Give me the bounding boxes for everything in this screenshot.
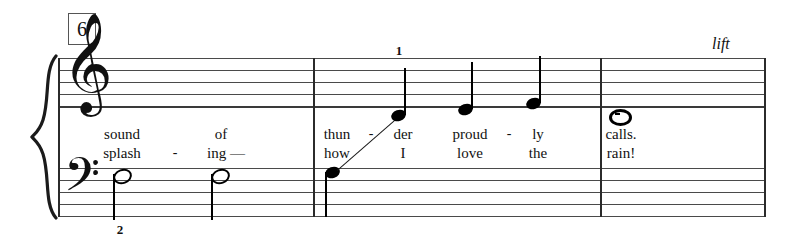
- bass-staff-line-4: [58, 204, 765, 205]
- stem-half-2: [211, 174, 213, 220]
- barline-measure-1-end: [313, 58, 315, 217]
- lyric-word: how: [324, 146, 350, 161]
- stem-quarter-1: [404, 68, 406, 115]
- system-brace: [30, 54, 60, 220]
- treble-staff-line-2: [58, 70, 765, 71]
- lyric-word: ly: [532, 127, 544, 142]
- lyric-word: love: [457, 146, 483, 161]
- lyric-hyphen: -: [507, 127, 512, 141]
- stem-quarter-2: [471, 62, 473, 109]
- bass-staff-line-5: [58, 216, 765, 217]
- stem-quarter-3: [539, 56, 541, 103]
- fingering-2: 2: [114, 223, 126, 236]
- fingering-1: 1: [393, 44, 405, 57]
- bass-staff-line-1: [58, 168, 765, 169]
- lyric-hyphen: -: [369, 127, 374, 141]
- lyric-word: der: [393, 127, 412, 142]
- lyric-word: sound: [104, 127, 140, 142]
- expression-lift: lift: [712, 36, 730, 52]
- treble-staff-line-5: [58, 106, 765, 108]
- stem-quarter-bass: [325, 172, 327, 217]
- lyric-hyphen: -: [173, 146, 178, 160]
- lyric-word: splash: [103, 146, 141, 161]
- bass-staff-line-2: [58, 180, 765, 181]
- notehead-whole: [609, 109, 632, 126]
- treble-clef-icon: 𝄞: [62, 20, 113, 106]
- lyric-word: calls.: [605, 127, 636, 142]
- treble-staff-line-3: [58, 82, 765, 83]
- lyric-word: of: [215, 127, 228, 142]
- stem-half-1: [113, 174, 115, 220]
- barline-measure-2-end: [600, 58, 602, 217]
- lyric-word: I: [401, 146, 406, 161]
- lyric-word: proud: [453, 127, 488, 142]
- barline-system-end: [764, 58, 766, 217]
- lyric-word: the: [529, 146, 547, 161]
- sheet-music-system: 6 lift 1 2 𝄞 𝄢: [0, 0, 790, 242]
- bass-clef-icon: 𝄢: [64, 152, 100, 208]
- treble-staff-line-1: [58, 58, 765, 59]
- lyric-word: ing —: [207, 146, 245, 161]
- bass-staff-line-3: [58, 192, 765, 193]
- barline-system-start: [58, 58, 60, 217]
- lyric-word: rain!: [607, 146, 635, 161]
- treble-staff-line-4: [58, 94, 765, 95]
- lyric-word: thun: [324, 127, 351, 142]
